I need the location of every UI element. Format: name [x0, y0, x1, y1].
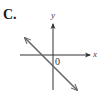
- graph-line-lower: [50, 63, 77, 90]
- graph-line: [25, 38, 50, 63]
- y-axis-label: y: [51, 11, 55, 20]
- origin-label: 0: [55, 57, 60, 67]
- x-axis-label: x: [93, 50, 97, 59]
